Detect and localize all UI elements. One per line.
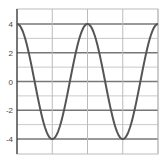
grid (17, 9, 158, 154)
y-tick-label: -2 (6, 106, 14, 115)
y-tick-label: 4 (9, 20, 14, 29)
y-tick-label: 0 (9, 78, 14, 87)
y-tick-label: 2 (9, 49, 14, 58)
y-tick-label: -4 (6, 135, 14, 144)
cosine-chart: 420-2-4 (0, 0, 165, 164)
y-axis-ticks: 420-2-4 (6, 20, 14, 144)
